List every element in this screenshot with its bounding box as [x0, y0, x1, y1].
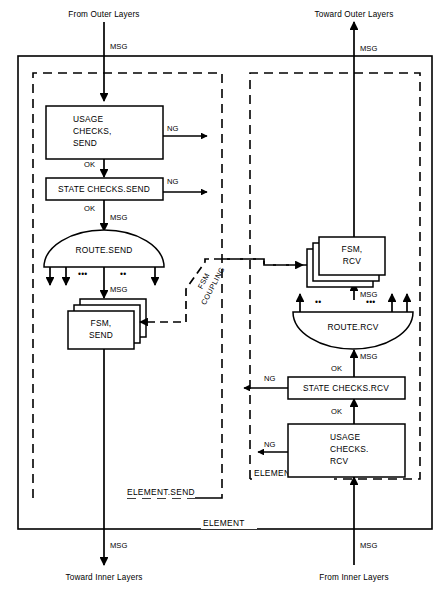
fsm-send-line2: SEND: [89, 330, 113, 340]
msg-label-fsm-send-in: MSG: [110, 285, 127, 294]
msg-label-route-send-in: MSG: [110, 213, 127, 222]
route-send-label: ROUTE.SEND: [76, 245, 133, 255]
usage-checks-send-line2: CHECKS,: [73, 126, 112, 136]
ok-label-state-send: OK: [84, 204, 95, 213]
msg-label-rcv-out: MSG: [360, 44, 377, 53]
state-checks-rcv-label: STATE CHECKS.RCV: [303, 383, 389, 393]
element-protocol-diagram: ELEMENT.SEND ELEMENT.RCV ELEMENT ELEMENT…: [0, 0, 448, 596]
route-send-ellipsis-left: •••: [78, 269, 87, 279]
state-checks-send-label: STATE CHECKS.SEND: [58, 184, 150, 194]
route-rcv-ellipsis-left: ••: [315, 297, 321, 307]
route-rcv-label: ROUTE.RCV: [327, 322, 378, 332]
toward-outer-layers-label: Toward Outer Layers: [315, 10, 394, 19]
msg-label-send-in: MSG: [110, 42, 127, 51]
ok-label-usage-send: OK: [84, 160, 95, 169]
element-send-frame-label-top: ELEMENT.SEND: [127, 487, 195, 497]
ok-label-state-rcv: OK: [331, 364, 342, 373]
fsm-rcv-line1: FSM,: [342, 244, 363, 254]
toward-inner-layers-label: Toward Inner Layers: [65, 573, 142, 582]
msg-label-route-rcv-in: MSG: [360, 352, 377, 361]
msg-label-fsm-rcv-out: MSG: [360, 290, 377, 299]
fsm-send-line1: FSM,: [91, 318, 112, 328]
ng-label-state-send: NG: [167, 177, 178, 186]
ng-label-usage-rcv: NG: [264, 440, 275, 449]
fsm-rcv-line2: RCV: [343, 256, 361, 266]
fsm-coupling-to-rcv: [222, 259, 303, 265]
from-outer-layers-label: From Outer Layers: [68, 10, 139, 19]
usage-checks-rcv-line2: CHECKS.: [330, 444, 369, 454]
msg-label-send-out: MSG: [110, 541, 127, 550]
usage-checks-send-line1: USAGE: [73, 114, 104, 124]
usage-checks-rcv-line1: USAGE: [330, 432, 361, 442]
ng-label-usage-send: NG: [167, 124, 178, 133]
usage-checks-send-line3: SEND: [73, 138, 97, 148]
msg-label-rcv-in: MSG: [360, 541, 377, 550]
route-send-ellipsis-right: ••: [120, 269, 126, 279]
ok-label-usage-rcv: OK: [331, 407, 342, 416]
ng-label-state-rcv: NG: [264, 374, 275, 383]
element-frame-label-top: ELEMENT: [203, 518, 245, 528]
from-inner-layers-label: From Inner Layers: [319, 573, 388, 582]
usage-checks-rcv-line3: RCV: [330, 456, 348, 466]
